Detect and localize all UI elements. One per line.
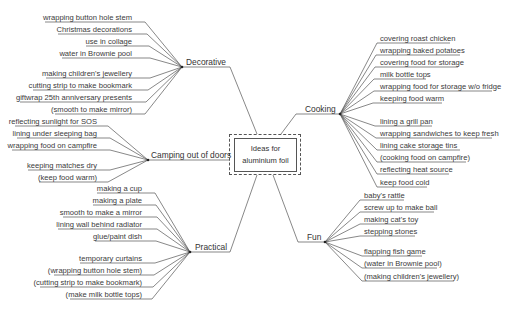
mind-map: Ideas for aluminium foil Decorative Camp… — [0, 0, 506, 314]
leaf-practical: (cutting strip to make bookmark) — [34, 278, 142, 287]
leaf-camping: keeping matches dry — [27, 161, 97, 170]
leaf-camping: lining under sleeping bag — [13, 129, 97, 138]
leaf-decorative: Christmas decorations — [56, 25, 132, 34]
leaf-decorative: use in collage — [86, 37, 132, 46]
branch-camping: Camping out of doors — [151, 150, 231, 160]
leaf-camping: wrapping food on campfire — [8, 141, 98, 150]
leaf-camping: (keep food warm) — [38, 173, 97, 182]
leaf-fun: stepping stones — [364, 227, 417, 236]
leaf-practical: (make milk bottle tops) — [66, 290, 142, 299]
center-node: Ideas for aluminium foil — [234, 138, 297, 172]
leaf-decorative: wrapping button hole stem — [43, 13, 132, 22]
leaf-practical: temporary curtains — [79, 254, 142, 263]
leaf-cooking: keeping food warm — [380, 94, 444, 103]
center-title-line1: Ideas for — [251, 143, 281, 155]
leaf-decorative: (smooth to make mirror) — [51, 105, 132, 114]
leaf-fun: baby's rattle — [364, 191, 405, 200]
leaf-fun: screw up to make ball — [364, 203, 437, 212]
leaf-cooking: covering roast chicken — [380, 34, 456, 43]
leaf-cooking: reflecting heat source — [380, 165, 453, 174]
leaf-practical: smooth to make a mirror — [60, 208, 142, 217]
leaf-decorative: giftwrap 25th anniversary presents — [16, 93, 132, 102]
leaf-practical: glue/paint dish — [93, 232, 142, 241]
leaf-decorative: making children's jewellery — [42, 69, 132, 78]
leaf-cooking: lining a grill pan — [380, 117, 433, 126]
leaf-practical: lining wall behind radiator — [56, 220, 142, 229]
leaf-cooking: wrapping baked potatoes — [380, 46, 465, 55]
leaf-cooking: covering food for storage — [380, 58, 464, 67]
leaf-decorative: cutting strip to make bookmark — [29, 81, 132, 90]
leaf-camping: reflecting sunlight for SOS — [9, 117, 97, 126]
leaf-decorative: water in Brownie pool — [59, 49, 132, 58]
branch-fun: Fun — [307, 232, 321, 242]
leaf-cooking: keep food cold — [380, 178, 429, 187]
leaf-fun: flapping fish game — [364, 247, 426, 256]
leaf-cooking: milk bottle tops — [380, 70, 431, 79]
leaf-practical: making a cup — [97, 184, 142, 193]
branch-decorative: Decorative — [186, 57, 226, 67]
center-title-line2: aluminium foil — [242, 155, 288, 167]
leaf-cooking: lining cake storage tins — [380, 141, 457, 150]
leaf-cooking: wrapping food for storage w/o fridge — [380, 82, 501, 91]
leaf-cooking: (cooking food on campfire) — [380, 153, 470, 162]
leaf-cooking: wrapping sandwiches to keep fresh — [380, 129, 499, 138]
branch-practical: Practical — [195, 242, 227, 252]
branch-cooking: Cooking — [305, 104, 336, 114]
leaf-fun: (making children's jewellery) — [364, 272, 459, 281]
leaf-practical: making a plate — [93, 196, 142, 205]
leaf-practical: (wrapping button hole stem) — [48, 266, 142, 275]
leaf-fun: making cat's toy — [364, 215, 418, 224]
leaf-fun: (water in Brownie pool) — [364, 259, 442, 268]
